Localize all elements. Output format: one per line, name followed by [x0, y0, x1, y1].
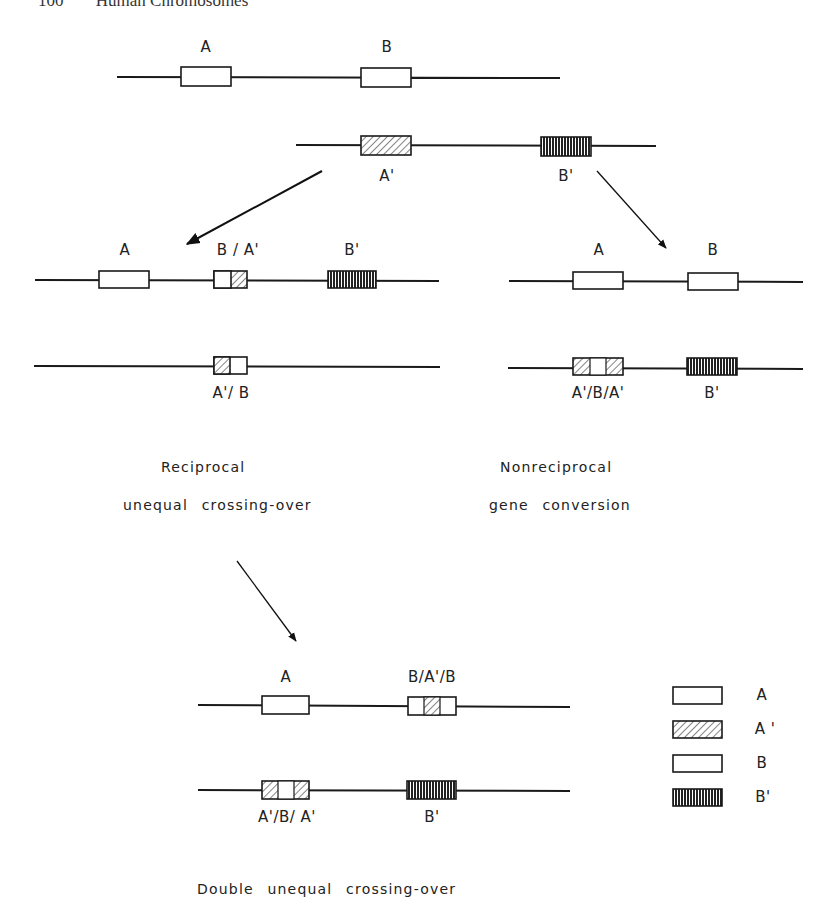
legend-label-a-prime: A '	[755, 720, 776, 738]
double-chromosome-2	[198, 781, 570, 799]
arrow-to-double	[237, 561, 296, 641]
legend-swatch-a	[673, 687, 722, 704]
reciprocal-label-a-prime-b: A'/ B	[213, 384, 250, 402]
nonreciprocal-chromosome-1	[509, 272, 803, 290]
legend-label-a: A	[757, 686, 768, 704]
double-label-b-a-prime-b: B/A'/B	[408, 668, 456, 686]
gene-label-b-prime: B'	[558, 167, 573, 185]
legend-label-b-prime: B'	[755, 788, 770, 806]
gene-diagram	[0, 0, 836, 904]
gene-label-b: B	[382, 38, 393, 56]
arrow-to-reciprocal	[187, 171, 322, 244]
double-caption: Double unequal crossing-over	[197, 881, 456, 897]
nonreciprocal-label-a: A	[594, 241, 605, 259]
gene-label-a-prime: A'	[379, 167, 394, 185]
legend-label-b: B	[757, 754, 768, 772]
legend-swatch-b-prime	[673, 789, 722, 806]
double-label-a: A	[281, 668, 292, 686]
double-chromosome-1	[198, 696, 570, 715]
nonreciprocal-label-b-prime: B'	[704, 384, 719, 402]
nonreciprocal-caption-line2: gene conversion	[489, 497, 631, 513]
top-chromosome-2	[296, 136, 656, 156]
nonreciprocal-chromosome-2	[508, 358, 803, 375]
double-label-a-prime-b-a-prime: A'/B/ A'	[258, 808, 316, 826]
double-label-b-prime: B'	[424, 808, 439, 826]
legend-swatch-a-prime	[673, 721, 722, 738]
reciprocal-chromosome-1	[35, 271, 439, 288]
nonreciprocal-label-a-prime-b-a-prime: A'/B/A'	[572, 384, 625, 402]
reciprocal-label-a: A	[120, 241, 131, 259]
reciprocal-label-b-prime: B'	[344, 241, 359, 259]
legend	[673, 687, 722, 806]
nonreciprocal-label-b: B	[708, 241, 719, 259]
reciprocal-caption-line2: unequal crossing-over	[123, 497, 312, 513]
top-chromosome-1	[117, 67, 560, 87]
nonreciprocal-caption-line1: Nonreciprocal	[500, 459, 612, 475]
reciprocal-caption-line1: Reciprocal	[161, 459, 245, 475]
legend-swatch-b	[673, 755, 722, 772]
reciprocal-label-b-a-prime: B / A'	[217, 241, 259, 259]
reciprocal-chromosome-2	[34, 357, 440, 374]
gene-label-a: A	[201, 38, 212, 56]
arrow-to-nonreciprocal	[597, 171, 666, 248]
